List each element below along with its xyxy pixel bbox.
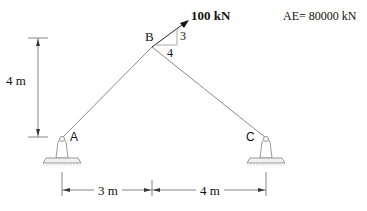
material-label: AE= 80000 kN <box>283 10 356 22</box>
load-label: 100 kN <box>191 9 230 22</box>
slope-vertical-label: 3 <box>180 30 186 42</box>
height-dimension-label: 4 m <box>6 74 26 87</box>
node-a-label: A <box>70 131 78 143</box>
span-dimension <box>62 172 266 196</box>
node-b-label: B <box>145 30 154 43</box>
member-bc <box>152 47 266 138</box>
slope-horizontal-label: 4 <box>167 47 173 59</box>
span-ab-label: 3 m <box>98 184 118 197</box>
node-c-label: C <box>246 131 255 143</box>
height-dimension <box>28 38 48 137</box>
span-bc-label: 4 m <box>200 184 220 197</box>
member-ab <box>62 47 152 138</box>
